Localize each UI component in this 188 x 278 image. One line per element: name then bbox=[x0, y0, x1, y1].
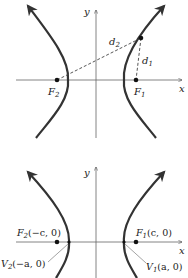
focus-f2-label: F2(−c, 0) bbox=[16, 227, 61, 240]
y-axis-label: y bbox=[83, 167, 90, 178]
focus-f2-label: F2 bbox=[47, 86, 60, 99]
focus-f1-label: F1 bbox=[133, 86, 145, 99]
hyperbola-diagrams: y x F2 F1 d2 d1 y x F2(−c, 0) F1(c, 0) V… bbox=[0, 0, 188, 278]
d1-label: d1 bbox=[142, 55, 153, 68]
x-axis-label: x bbox=[179, 83, 185, 94]
focus-f1-label: F1(c, 0) bbox=[135, 227, 172, 240]
left-branch bbox=[28, 6, 68, 138]
focus-f2-dot bbox=[55, 78, 60, 83]
right-branch bbox=[124, 6, 164, 138]
point-on-hyperbola bbox=[139, 36, 144, 41]
vertex-v2-label: V2(−a, 0) bbox=[1, 258, 45, 271]
vertex-v1-dot bbox=[122, 240, 125, 243]
vertex-v2-dot bbox=[67, 240, 70, 243]
bottom-diagram: y x F2(−c, 0) F1(c, 0) V2(−a, 0) V1(a, 0… bbox=[1, 167, 185, 278]
focus-f2-dot bbox=[55, 240, 60, 245]
x-axis-label: x bbox=[179, 245, 185, 256]
focus-f1-dot bbox=[134, 78, 139, 83]
vertex-v1-label: V1(a, 0) bbox=[146, 261, 183, 274]
d1-dashed-line bbox=[136, 38, 141, 80]
d2-label: d2 bbox=[109, 36, 120, 49]
top-diagram: y x F2 F1 d2 d1 bbox=[16, 6, 185, 138]
y-axis-label: y bbox=[83, 6, 90, 17]
focus-f1-dot bbox=[134, 240, 139, 245]
